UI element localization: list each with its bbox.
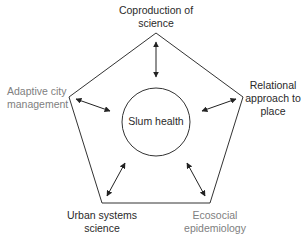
arrow-bottom-left bbox=[107, 163, 125, 196]
arrow-left bbox=[76, 99, 110, 111]
node-label-line: Adaptive city bbox=[7, 85, 73, 98]
node-label-line: Relational bbox=[240, 79, 306, 92]
arrow-right bbox=[202, 99, 236, 111]
node-label-line: epidemiology bbox=[175, 222, 255, 235]
node-label-line: management bbox=[7, 98, 73, 111]
arrow-bottom-right bbox=[187, 163, 205, 196]
node-label-line: place bbox=[240, 105, 306, 118]
node-label-line: science bbox=[60, 222, 144, 235]
center-label: Slum health bbox=[120, 115, 192, 128]
node-adaptive-city-management: Adaptive city management bbox=[0, 85, 73, 111]
node-label-line: Coproduction of bbox=[106, 4, 206, 17]
node-label-line: Ecosocial bbox=[175, 209, 255, 222]
node-coproduction-of-science: Coproduction of science bbox=[106, 4, 206, 30]
node-label-line: approach to bbox=[240, 92, 306, 105]
node-urban-systems-science: Urban systems science bbox=[60, 209, 144, 235]
node-relational-approach-to-place: Relational approach to place bbox=[240, 79, 306, 118]
node-label-line: science bbox=[106, 17, 206, 30]
node-ecosocial-epidemiology: Ecosocial epidemiology bbox=[175, 209, 255, 235]
node-label-line: Urban systems bbox=[60, 209, 144, 222]
